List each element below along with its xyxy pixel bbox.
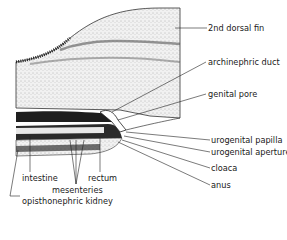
label-archinephric-duct: archinephric duct [208, 57, 280, 67]
leader-opisthonephric-kidney [10, 150, 20, 196]
label-cloaca: cloaca [211, 163, 237, 173]
label-genital-pore: genital pore [208, 89, 257, 99]
leader-cloaca [122, 140, 210, 168]
intestine-light [16, 127, 104, 134]
leader-urogenital-aperture [124, 136, 210, 152]
kidney-band [16, 111, 112, 122]
label-rectum: rectum [88, 173, 117, 183]
label-opisthonephric-kidney: opisthonephric kidney [22, 196, 113, 206]
label-intestine: intestine [22, 173, 58, 183]
label-urogenital-aperture: urogenital aperture [211, 147, 287, 157]
lower-trunk-edge [126, 118, 180, 130]
label-urogenital-papilla: urogenital papilla [211, 135, 282, 145]
label-mesenteries: mesenteries [52, 185, 103, 195]
label-2nd-dorsal-fin: 2nd dorsal fin [208, 23, 264, 33]
label-anus: anus [211, 180, 231, 190]
